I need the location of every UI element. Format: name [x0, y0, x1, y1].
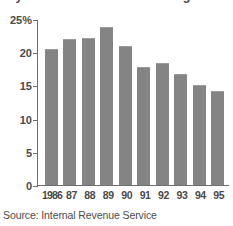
bar [100, 27, 113, 185]
x-axis-label: 94 [191, 189, 209, 201]
y-axis-tick-mark [33, 186, 38, 187]
bar [211, 91, 224, 185]
x-axis-label: 92 [154, 189, 172, 201]
source-note: Source: Internal Revenue Service [3, 209, 157, 221]
x-axis-label: 91 [136, 189, 154, 201]
x-axis-label: 88 [81, 189, 99, 201]
bar-slot [42, 20, 61, 185]
bar-slot [98, 20, 117, 185]
y-axis-tick-label: 5 [26, 147, 32, 159]
y-axis-tick-label: 20 [20, 47, 32, 59]
bar-slot [79, 20, 98, 185]
bar [119, 46, 132, 185]
y-axis-tick-label: 0 [26, 180, 32, 192]
bar-slot [190, 20, 209, 185]
x-axis-label: 89 [99, 189, 117, 201]
bar-slot [116, 20, 135, 185]
bar [82, 38, 95, 185]
bar [174, 74, 187, 185]
plot-area: 0510152025% [37, 20, 229, 186]
y-axis-tick-label: 15 [20, 80, 32, 92]
bar-slot [135, 20, 154, 185]
x-axis-label: 95 [210, 189, 228, 201]
bar [193, 85, 206, 185]
x-axis-labels: 1986878889909192939495 [38, 189, 230, 201]
bar [63, 39, 76, 185]
bar-slot [61, 20, 80, 185]
x-axis-label: 90 [117, 189, 135, 201]
bar-slot [153, 20, 172, 185]
x-axis-label: 1986 [42, 189, 62, 201]
bar-slot [209, 20, 228, 185]
y-axis-tick-label: 25% [10, 14, 32, 26]
bar [137, 67, 150, 185]
x-axis-baseline [37, 185, 229, 186]
y-axis-tick-label: 10 [20, 114, 32, 126]
bar-slot [172, 20, 191, 185]
chart-title: by the IRS has been decreasing since 198… [8, 0, 233, 3]
x-axis-label: 87 [62, 189, 80, 201]
bar-series [38, 20, 229, 185]
x-axis-label: 93 [173, 189, 191, 201]
bar [156, 63, 169, 185]
bar [45, 49, 58, 185]
